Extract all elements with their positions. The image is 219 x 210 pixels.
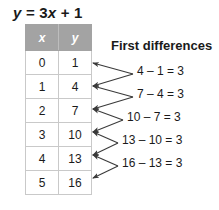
cell-y: 1 [59, 51, 92, 75]
table-row: 4 13 [26, 147, 92, 171]
first-differences-label: First differences [111, 38, 212, 53]
table-row: 5 16 [26, 171, 92, 195]
cell-x: 5 [26, 171, 59, 195]
cell-y: 4 [59, 75, 92, 99]
cell-x: 2 [26, 99, 59, 123]
equation-constant: 1 [74, 4, 83, 21]
arrow-pair-1 [93, 63, 133, 86]
cell-y: 13 [59, 147, 92, 171]
cell-y: 7 [59, 99, 92, 123]
equation-coefficient: 3 [39, 4, 48, 21]
table-row: 2 7 [26, 99, 92, 123]
arrow-pair-2 [93, 86, 133, 109]
difference-equation: 13 – 10 = 3 [122, 133, 182, 147]
cell-x: 1 [26, 75, 59, 99]
cell-y: 10 [59, 123, 92, 147]
table-row: 0 1 [26, 51, 92, 75]
value-table: x y 0 1 1 4 2 7 3 10 4 13 [25, 24, 92, 195]
function-equation: y = 3x + 1 [13, 4, 83, 21]
cell-x: 0 [26, 51, 59, 75]
equation-y-variable: y [13, 4, 22, 21]
column-header-y: y [59, 25, 92, 51]
cell-x: 4 [26, 147, 59, 171]
cell-x: 3 [26, 123, 59, 147]
equation-plus: + [56, 4, 74, 21]
arrow-pair-5 [93, 155, 118, 178]
figure-root: y = 3x + 1 x y 0 1 1 4 2 7 3 10 [0, 0, 219, 210]
cell-y: 16 [59, 171, 92, 195]
arrow-pair-3 [93, 109, 123, 132]
table-row: 1 4 [26, 75, 92, 99]
table-row: 3 10 [26, 123, 92, 147]
equation-equals: = [22, 4, 40, 21]
difference-equation: 16 – 13 = 3 [122, 156, 182, 170]
table-header-row: x y [26, 25, 92, 51]
difference-equation: 4 – 1 = 3 [137, 64, 184, 78]
difference-equation: 7 – 4 = 3 [137, 87, 184, 101]
arrow-pair-4 [93, 132, 118, 155]
difference-equation: 10 – 7 = 3 [127, 110, 181, 124]
column-header-x: x [26, 25, 59, 51]
